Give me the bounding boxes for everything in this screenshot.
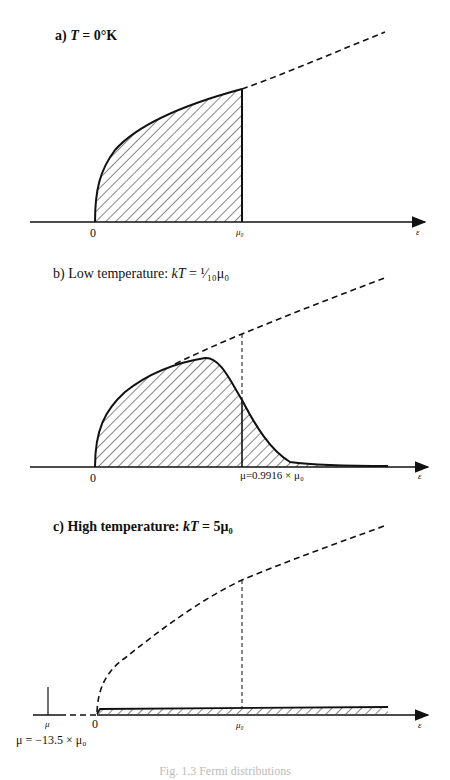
panel-c xyxy=(33,525,428,715)
panel-c-zero-label: 0 xyxy=(92,717,98,732)
panel-c-mu-value: μ = −13.5 × μ₀ xyxy=(16,733,86,748)
panel-c-epsilon-label: ε xyxy=(418,720,422,730)
fermi-distribution-figure xyxy=(0,0,450,780)
panel-b-mu-label: μ=0.9916 × μ₀ xyxy=(240,469,304,481)
panel-b-zero-label: 0 xyxy=(90,471,96,486)
panel-a-occupied-area xyxy=(95,89,242,222)
panel-a-epsilon-label: ε xyxy=(416,227,420,237)
panel-c-mu-label: μ xyxy=(45,719,50,729)
panel-a-mu0-label: μ₀ xyxy=(236,227,244,237)
panel-b-title: b) Low temperature: kT = ¹⁄₁₀μ₀ xyxy=(53,266,229,282)
panel-b xyxy=(30,277,428,467)
figure-caption: Fig. 1.3 Fermi distributions xyxy=(0,764,450,779)
panel-b-dos-dashed xyxy=(175,277,387,364)
panel-a xyxy=(30,32,425,222)
panel-b-epsilon-label: ε xyxy=(418,471,422,481)
panel-c-mu0-label: μ₀ xyxy=(236,720,244,730)
panel-a-title: a) T = 0°K xyxy=(55,28,117,44)
panel-a-zero-label: 0 xyxy=(90,226,96,241)
panel-c-title: c) High temperature: kT = 5μ₀ xyxy=(53,519,233,535)
panel-a-dos-dashed xyxy=(242,32,385,89)
